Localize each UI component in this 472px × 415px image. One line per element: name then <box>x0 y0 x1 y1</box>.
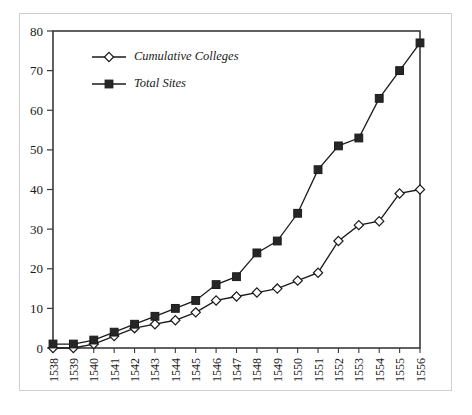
line-chart-svg: 0102030405060708015381539154015411542154… <box>0 0 472 415</box>
data-point-marker <box>150 320 159 329</box>
data-point-marker <box>232 292 241 301</box>
x-tick-label: 1550 <box>291 358 305 382</box>
x-tick-label: 1546 <box>210 358 224 382</box>
data-point-marker <box>253 249 261 257</box>
y-tick-label: 10 <box>30 301 43 316</box>
y-tick-label: 70 <box>30 63 43 78</box>
data-point-marker <box>273 284 282 293</box>
x-tick-label: 1547 <box>230 358 244 382</box>
data-point-marker <box>105 80 113 88</box>
data-point-marker <box>104 52 113 61</box>
x-tick-label: 1555 <box>393 358 407 382</box>
data-point-marker <box>294 209 302 217</box>
data-point-marker <box>416 39 424 47</box>
x-tick-label: 1556 <box>414 358 428 382</box>
data-point-marker <box>151 312 159 320</box>
x-tick-label: 1543 <box>148 358 162 382</box>
plot-wrapper: 0102030405060708015381539154015411542154… <box>0 0 472 415</box>
series-cumulative-colleges <box>48 185 424 353</box>
x-tick-label: 1551 <box>312 358 326 382</box>
data-point-marker <box>396 67 404 75</box>
data-point-marker <box>355 134 363 142</box>
data-point-marker <box>273 237 281 245</box>
y-tick-label: 30 <box>30 222 43 237</box>
x-tick-label: 1539 <box>67 358 81 382</box>
data-point-marker <box>313 268 322 277</box>
data-point-marker <box>212 296 221 305</box>
x-tick-label: 1542 <box>128 358 142 382</box>
y-tick-label: 0 <box>37 341 44 356</box>
x-tick-label: 1554 <box>373 358 387 382</box>
data-point-marker <box>171 304 179 312</box>
data-point-marker <box>252 288 261 297</box>
x-tick-label: 1553 <box>352 358 366 382</box>
x-tick-label: 1545 <box>189 358 203 382</box>
x-axis: 1538153915401541154215431544154515461547… <box>47 348 428 382</box>
y-tick-label: 50 <box>30 142 43 157</box>
legend-item: Total Sites <box>92 76 186 90</box>
data-point-marker <box>233 273 241 281</box>
y-axis: 01020304050607080 <box>30 24 53 356</box>
data-point-marker <box>131 320 139 328</box>
legend-label: Cumulative Colleges <box>134 49 239 63</box>
data-point-marker <box>335 142 343 150</box>
y-tick-label: 60 <box>30 103 43 118</box>
y-tick-label: 20 <box>30 261 43 276</box>
x-tick-label: 1552 <box>332 358 346 382</box>
data-point-marker <box>212 281 220 289</box>
chart-legend: Cumulative CollegesTotal Sites <box>92 49 239 90</box>
data-point-marker <box>191 308 200 317</box>
data-point-marker <box>110 328 118 336</box>
series-line <box>53 190 420 349</box>
data-point-marker <box>171 316 180 325</box>
x-tick-label: 1548 <box>250 358 264 382</box>
x-tick-label: 1538 <box>47 358 61 382</box>
data-point-marker <box>375 217 384 226</box>
data-point-marker <box>314 166 322 174</box>
y-tick-label: 80 <box>30 24 43 39</box>
data-point-marker <box>192 297 200 305</box>
data-point-marker <box>395 189 404 198</box>
data-point-marker <box>415 185 424 194</box>
y-tick-label: 40 <box>30 182 43 197</box>
chart-figure: 0102030405060708015381539154015411542154… <box>0 0 472 415</box>
x-tick-label: 1549 <box>271 358 285 382</box>
data-point-marker <box>293 276 302 285</box>
x-tick-label: 1544 <box>169 358 183 382</box>
legend-label: Total Sites <box>134 76 186 90</box>
x-tick-label: 1540 <box>87 358 101 382</box>
data-point-marker <box>69 340 77 348</box>
data-point-marker <box>49 340 57 348</box>
data-point-marker <box>90 336 98 344</box>
x-tick-label: 1541 <box>108 358 122 382</box>
legend-item: Cumulative Colleges <box>92 49 239 63</box>
data-point-marker <box>375 94 383 102</box>
